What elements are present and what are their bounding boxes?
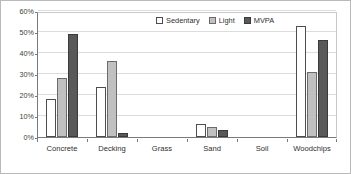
bar-light-sand — [207, 127, 217, 138]
legend-item-mvpa: MVPA — [244, 17, 274, 24]
x-axis-tick-mark — [237, 139, 238, 142]
bar-group — [88, 13, 138, 137]
bar-group — [238, 13, 288, 137]
y-axis-tick-label: 20% — [2, 92, 34, 99]
bar-mvpa-concrete — [68, 34, 78, 137]
legend-item-light: Light — [209, 17, 235, 24]
bar-mvpa-sand — [218, 130, 228, 137]
y-axis-tick-label: 50% — [2, 29, 34, 36]
bar-group — [138, 13, 188, 137]
bar-light-woodchips — [307, 72, 317, 137]
y-axis: 0%10%20%30%40%50%60% — [1, 1, 37, 174]
bar-group — [188, 13, 238, 137]
x-axis: ConcreteDeckingGrassSandSoilWoodchips — [37, 139, 337, 161]
bar-sedentary-sand — [196, 124, 206, 137]
legend-label: Sedentary — [166, 17, 200, 24]
y-axis-tick-label: 30% — [2, 71, 34, 78]
bar-mvpa-woodchips — [318, 40, 328, 137]
y-axis-tick-label: 40% — [2, 50, 34, 57]
x-axis-label-sand: Sand — [187, 145, 237, 153]
x-axis-tick-mark — [137, 139, 138, 142]
x-axis-tick-mark — [287, 139, 288, 142]
chart-legend: SedentaryLightMVPA — [153, 14, 277, 27]
x-axis-label-woodchips: Woodchips — [287, 145, 337, 153]
y-axis-tick-label: 60% — [2, 8, 34, 15]
y-axis-tick-label: 10% — [2, 113, 34, 120]
x-axis-tick-mark — [336, 139, 337, 142]
x-axis-tick-mark — [37, 139, 38, 142]
bar-light-concrete — [57, 78, 67, 137]
legend-label: Light — [219, 17, 235, 24]
bar-light-decking — [107, 61, 117, 137]
x-axis-tick-mark — [87, 139, 88, 142]
bars-layer — [38, 13, 336, 137]
legend-item-sedentary: Sedentary — [156, 17, 200, 24]
legend-swatch-mvpa — [244, 17, 251, 24]
chart-frame: 0%10%20%30%40%50%60% ConcreteDeckingGras… — [0, 0, 351, 174]
bar-mvpa-decking — [118, 133, 128, 137]
bar-group — [38, 13, 88, 137]
bar-sedentary-decking — [96, 87, 106, 137]
legend-label: MVPA — [254, 17, 274, 24]
bar-group — [288, 13, 338, 137]
x-axis-tick-mark — [187, 139, 188, 142]
legend-swatch-light — [209, 17, 216, 24]
bar-sedentary-concrete — [46, 99, 56, 137]
x-axis-label-decking: Decking — [87, 145, 137, 153]
gridline — [38, 10, 336, 11]
legend-swatch-sedentary — [156, 17, 163, 24]
y-axis-tick-label: 0% — [2, 134, 34, 141]
x-axis-label-soil: Soil — [237, 145, 287, 153]
bar-sedentary-woodchips — [296, 26, 306, 137]
x-axis-label-grass: Grass — [137, 145, 187, 153]
x-axis-label-concrete: Concrete — [37, 145, 87, 153]
plot-area — [37, 12, 337, 138]
